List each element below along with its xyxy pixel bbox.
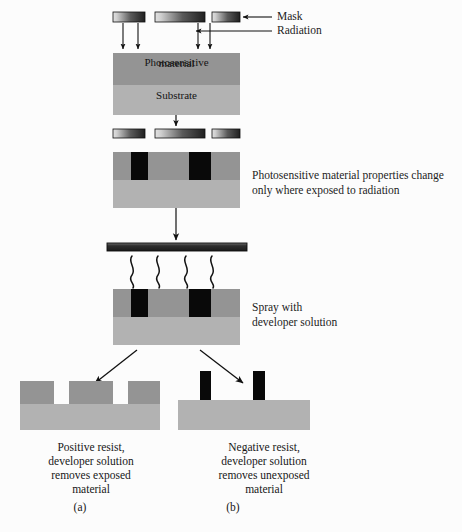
mask-bars-top bbox=[113, 12, 240, 22]
spray-note-line2: developer solution bbox=[252, 315, 337, 330]
spray-note-line1: Spray with bbox=[252, 300, 337, 315]
mask-label: Mask bbox=[277, 10, 303, 24]
negative-resist-caption: Negative resist, developer solution remo… bbox=[176, 440, 352, 496]
exposure-note-line1: Photosensitive material properties chang… bbox=[252, 168, 444, 183]
positive-caption-line2: developer solution bbox=[8, 454, 174, 468]
photolithography-figure: Mask Radiation Photosensitive material S… bbox=[0, 0, 462, 532]
positive-caption-line4: material bbox=[8, 482, 174, 496]
spray-bar bbox=[107, 243, 247, 251]
stack-exposed bbox=[113, 152, 240, 208]
mask-bars-mid bbox=[113, 129, 240, 138]
radiation-label: Radiation bbox=[277, 24, 322, 38]
negative-caption-line1: Negative resist, bbox=[176, 440, 352, 454]
photosensitive-label-line2: material bbox=[113, 57, 240, 70]
exposure-note-line2: only where exposed to radiation bbox=[252, 183, 444, 198]
result-positive-resist bbox=[20, 381, 160, 430]
positive-resist-caption: Positive resist, developer solution remo… bbox=[8, 440, 174, 496]
spray-squiggles bbox=[130, 256, 213, 288]
result-negative-resist bbox=[178, 371, 310, 430]
negative-caption-line4: material bbox=[176, 482, 352, 496]
positive-caption-line1: Positive resist, bbox=[8, 440, 174, 454]
positive-caption-line3: removes exposed bbox=[8, 468, 174, 482]
branch-arrow-positive bbox=[95, 350, 137, 383]
subfigure-label-a: (a) bbox=[60, 501, 100, 513]
radiation-arrows bbox=[123, 23, 210, 49]
subfigure-label-b: (b) bbox=[213, 501, 253, 513]
negative-caption-line3: removes unexposed bbox=[176, 468, 352, 482]
stack-developing bbox=[113, 289, 240, 345]
substrate-label: Substrate bbox=[113, 89, 240, 102]
negative-caption-line2: developer solution bbox=[176, 454, 352, 468]
spray-note: Spray with developer solution bbox=[252, 300, 337, 329]
exposure-note: Photosensitive material properties chang… bbox=[252, 168, 444, 197]
